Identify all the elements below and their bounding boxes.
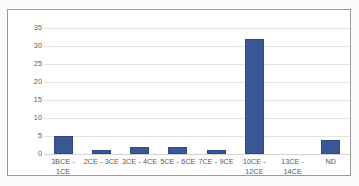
bar xyxy=(168,147,187,154)
x-axis-tick-label: 3CE - 4CE xyxy=(121,157,159,167)
bar-chart-figure: 05101520253035 3BCE - 1CE2CE - 3CE3CE - … xyxy=(0,0,359,186)
x-axis-tick-label: 5CE - 6CE xyxy=(159,157,197,167)
y-axis-tick-label: 25 xyxy=(34,60,42,67)
y-axis-tick-label: 0 xyxy=(38,150,42,157)
gridline xyxy=(44,154,350,155)
chart-frame-border: 05101520253035 3BCE - 1CE2CE - 3CE3CE - … xyxy=(7,9,351,176)
bar xyxy=(245,39,264,154)
bar-series xyxy=(44,28,350,154)
y-axis-tick-label: 30 xyxy=(34,42,42,49)
bar xyxy=(54,136,73,154)
bar xyxy=(92,150,111,154)
x-axis-tick-label: 2CE - 3CE xyxy=(82,157,120,167)
bar xyxy=(207,150,226,154)
bar xyxy=(321,140,340,154)
y-axis-tick-label: 15 xyxy=(34,96,42,103)
bar xyxy=(130,147,149,154)
y-axis-tick-label: 5 xyxy=(38,132,42,139)
y-axis-tick-label: 20 xyxy=(34,78,42,85)
y-axis-tick-label: 35 xyxy=(34,24,42,31)
y-axis-tick-label: 10 xyxy=(34,114,42,121)
x-axis-tick-label: 3BCE - 1CE xyxy=(44,157,82,176)
x-axis-tick-label: 13CE - 14CE xyxy=(274,157,312,176)
x-axis-tick-label: ND xyxy=(312,157,350,167)
x-axis-tick-label: 10CE - 12CE xyxy=(235,157,273,176)
y-axis: 05101520253035 xyxy=(16,28,42,154)
x-axis-tick-label: 7CE - 9CE xyxy=(197,157,235,167)
x-axis: 3BCE - 1CE2CE - 3CE3CE - 4CE5CE - 6CE7CE… xyxy=(44,157,350,183)
